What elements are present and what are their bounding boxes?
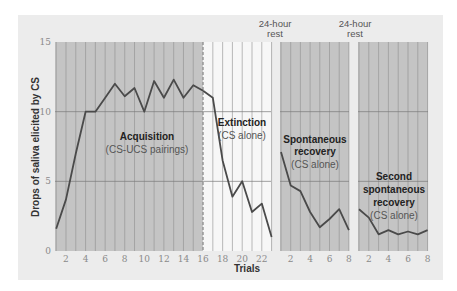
x-tick-label: 6 xyxy=(327,254,333,264)
x-axis-label: Trials xyxy=(234,263,261,274)
rest-label-1-line2: rest xyxy=(267,28,283,39)
x-tick-label: 8 xyxy=(425,254,431,264)
x-tick-label: 2 xyxy=(63,254,69,264)
x-tick-label: 2 xyxy=(288,254,294,264)
x-tick-label: 2 xyxy=(366,254,372,264)
extinction-label: Extinction xyxy=(218,117,266,128)
x-tick-label: 6 xyxy=(405,254,411,264)
x-tick-label: 6 xyxy=(102,254,108,264)
acquisition-label: Acquisition xyxy=(120,131,174,142)
x-tick-label: 4 xyxy=(386,254,392,264)
acquisition-sublabel: (CS-UCS pairings) xyxy=(106,144,189,155)
extinction-sublabel: (CS alone) xyxy=(218,130,266,141)
y-tick-label: 15 xyxy=(40,37,52,47)
rest-label-2-line2: rest xyxy=(347,28,363,39)
x-tick-label: 14 xyxy=(178,254,190,264)
y-tick-label: 0 xyxy=(45,246,51,256)
y-axis-label: Drops of saliva elicited by CS xyxy=(30,77,41,217)
second-recovery-label-3: recovery xyxy=(373,197,415,208)
y-tick-label: 10 xyxy=(40,107,52,117)
spontaneous-recovery-label-1: Spontaneous xyxy=(283,134,347,145)
second-recovery-label-1: Second xyxy=(376,171,412,182)
x-tick-label: 16 xyxy=(197,254,209,264)
spontaneous-recovery-sublabel: (CS alone) xyxy=(291,159,339,170)
second-recovery-sublabel: (CS alone) xyxy=(370,210,418,221)
x-tick-label: 12 xyxy=(158,254,169,264)
x-tick-label: 4 xyxy=(83,254,89,264)
x-tick-label: 10 xyxy=(139,254,151,264)
x-tick-label: 8 xyxy=(122,254,128,264)
chart: 24681012141618202224682468051015 Drops o… xyxy=(0,0,457,291)
y-tick-label: 5 xyxy=(45,176,51,186)
x-tick-label: 8 xyxy=(346,254,352,264)
x-tick-label: 18 xyxy=(217,254,229,264)
spontaneous-recovery-label-2: recovery xyxy=(294,146,336,157)
second-recovery-label-2: spontaneous xyxy=(363,184,426,195)
extinction-region xyxy=(203,42,271,251)
x-tick-label: 4 xyxy=(307,254,313,264)
